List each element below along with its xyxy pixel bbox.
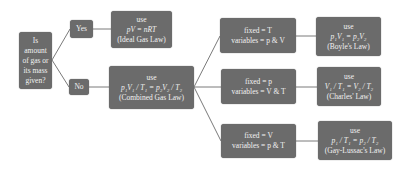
question-line: Is [33, 36, 38, 46]
connector-question-no [52, 60, 69, 87]
boyles-law-node: use p₁V₁ = p₂V₂ (Boyle's Law) [316, 17, 381, 56]
question-line: given? [26, 76, 46, 86]
law-name: (Ideal Gas Law) [117, 35, 166, 45]
fixed-label: fixed = p [245, 77, 272, 87]
yes-label: Yes [76, 24, 87, 34]
connector-combined-fixed-v [194, 87, 221, 141]
equation: p₁V₁ / T₁ = p₂V₂ / T₂ [121, 83, 182, 93]
law-name: (Charles' Law) [327, 92, 371, 102]
equation: p₁V₁ = p₂V₂ [331, 32, 367, 42]
use-label: use [344, 22, 354, 32]
use-label: use [147, 73, 157, 83]
law-name: (Boyle's Law) [327, 42, 369, 52]
use-label: use [344, 72, 354, 82]
connector-combined-fixed-t [194, 36, 220, 87]
question-line: its mass [24, 66, 48, 76]
gay-lussac-law-node: use p₁ / T₁ = p₂ / T₂ (Gay-Lussac's Law) [318, 121, 392, 160]
fixed-label: fixed = V [244, 131, 273, 141]
no-label: No [74, 82, 83, 92]
use-label: use [350, 126, 360, 136]
use-label: use [137, 15, 147, 25]
charles-law-node: use V₁ / T₁ = V₂ / T₂ (Charles' Law) [317, 67, 381, 106]
variables-label: variables = V & T [231, 87, 285, 97]
no-node: No [69, 79, 89, 95]
question-node: Is amount of gas or its mass given? [19, 32, 52, 89]
fixed-v-node: fixed = V variables = p & T [221, 124, 296, 158]
law-name: (Combined Gas Law) [119, 93, 184, 103]
connector-question-yes [52, 29, 70, 60]
question-line: of gas or [22, 56, 48, 66]
fixed-t-node: fixed = T variables = p & V [220, 18, 296, 53]
equation: pV = nRT [127, 25, 157, 35]
law-name: (Gay-Lussac's Law) [325, 146, 385, 156]
question-line: amount [24, 46, 47, 56]
fixed-label: fixed = T [244, 26, 272, 36]
combined-gas-law-node: use p₁V₁ / T₁ = p₂V₂ / T₂ (Combined Gas … [109, 66, 194, 109]
fixed-p-node: fixed = p variables = V & T [221, 69, 296, 104]
equation: p₁ / T₁ = p₂ / T₂ [332, 136, 379, 146]
ideal-gas-law-node: use pV = nRT (Ideal Gas Law) [111, 11, 172, 48]
variables-label: variables = p & T [232, 141, 285, 151]
yes-node: Yes [70, 20, 93, 38]
equation: V₁ / T₁ = V₂ / T₂ [325, 82, 373, 92]
variables-label: variables = p & V [231, 36, 285, 46]
